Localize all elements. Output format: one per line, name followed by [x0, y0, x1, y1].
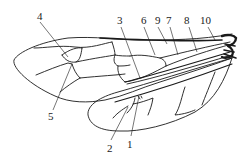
forewing-costa: [100, 38, 222, 41]
label-4: 4: [37, 11, 43, 22]
label-9: 9: [155, 15, 161, 26]
wing-diagram: 1 2 3 4 5 6 9 7 8 10: [0, 0, 249, 168]
label-7: 7: [166, 15, 172, 26]
label-3: 3: [117, 15, 123, 26]
label-5: 5: [48, 111, 54, 122]
label-1: 1: [127, 139, 133, 150]
label-10: 10: [200, 15, 211, 26]
label-2: 2: [107, 143, 113, 154]
label-8: 8: [184, 15, 190, 26]
wing-illustration: [0, 0, 249, 168]
label-6: 6: [141, 15, 147, 26]
